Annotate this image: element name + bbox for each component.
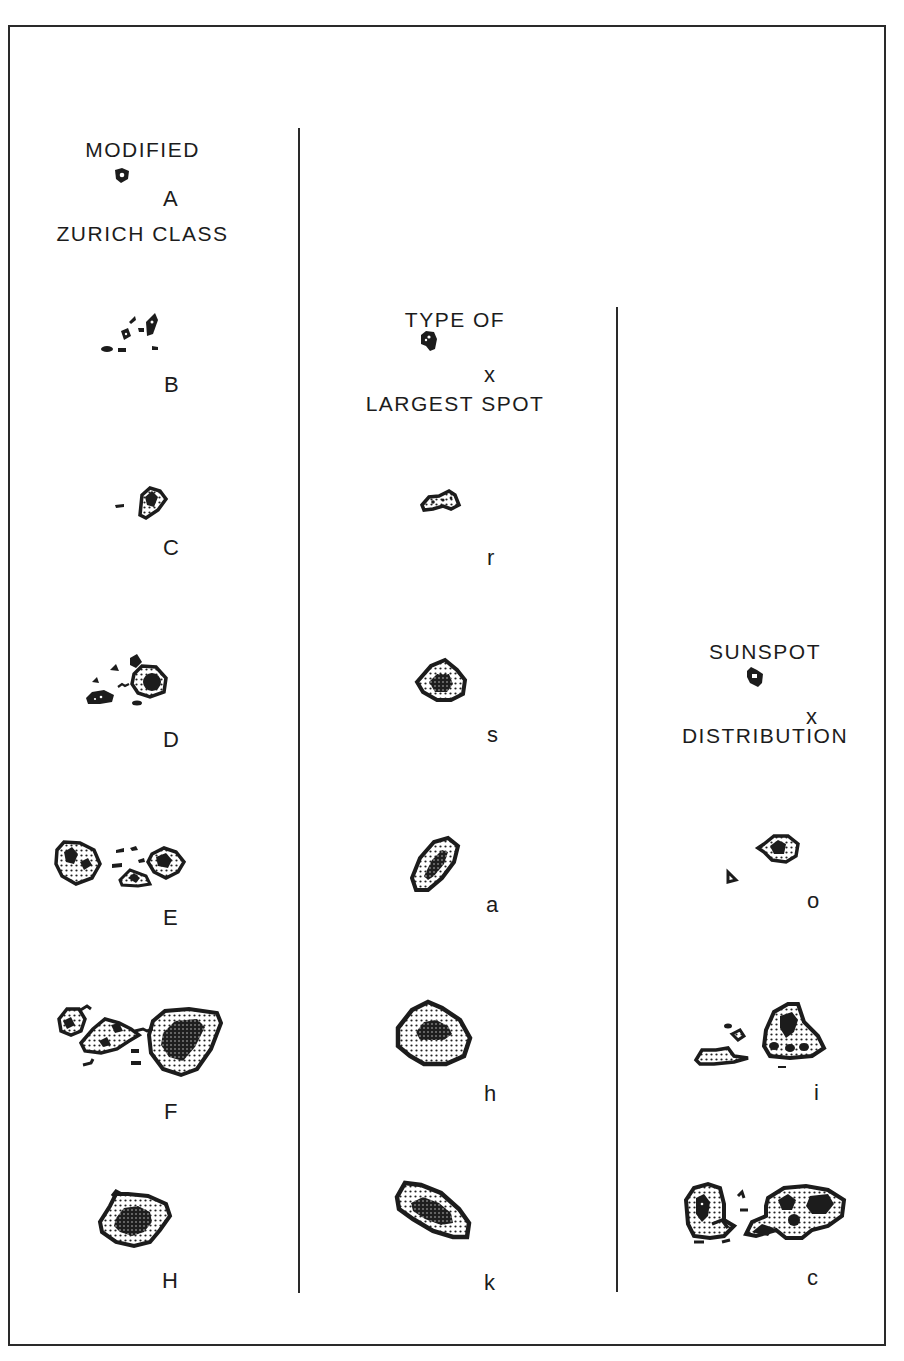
intermediate-distribution-icon: [694, 1002, 834, 1072]
bipolar-penumbra-both-ends-icon: [84, 652, 174, 708]
heading-line: DISTRIBUTION: [655, 722, 875, 750]
rudimentary-penumbra-icon: [419, 487, 463, 513]
bipolar-spots-no-penumbra-icon: [98, 310, 168, 358]
heading-line: TYPE OF: [340, 306, 570, 334]
column-divider-1: [298, 128, 300, 1293]
heading-line: MODIFIED: [40, 136, 245, 164]
unipolar-small-spot-icon: [112, 166, 132, 186]
large-symmetric-penumbra-icon: [394, 998, 474, 1066]
type-label-r: r: [487, 545, 494, 571]
class-label-B: B: [164, 372, 179, 398]
no-penumbra-spot-icon: [418, 329, 440, 353]
distribution-label-x: x: [806, 704, 817, 730]
bipolar-very-large-group-icon: [57, 1003, 227, 1079]
column-heading-zurich-class: MODIFIED ZURICH CLASS: [40, 80, 245, 276]
class-label-C: C: [163, 535, 179, 561]
distribution-label-i: i: [814, 1080, 819, 1106]
type-label-k: k: [484, 1270, 495, 1296]
open-distribution-icon: [724, 830, 810, 890]
column-heading-largest-spot: TYPE OF LARGEST SPOT: [340, 250, 570, 446]
type-label-h: h: [484, 1081, 496, 1107]
type-label-x: x: [484, 362, 495, 388]
unipolar-with-penumbra-icon: [98, 1188, 174, 1252]
heading-line: ZURICH CLASS: [40, 220, 245, 248]
class-label-A: A: [163, 186, 178, 212]
distribution-label-c: c: [807, 1265, 818, 1291]
distribution-label-o: o: [807, 888, 819, 914]
class-label-E: E: [163, 905, 178, 931]
class-label-H: H: [162, 1268, 178, 1294]
class-label-F: F: [164, 1099, 177, 1125]
heading-line: SUNSPOT: [655, 638, 875, 666]
large-asymmetric-penumbra-icon: [393, 1179, 473, 1245]
small-asymmetric-penumbra-icon: [408, 834, 462, 896]
single-spot-icon: [744, 665, 766, 689]
compact-distribution-icon: [682, 1180, 852, 1250]
type-label-a: a: [486, 892, 498, 918]
small-symmetric-penumbra-icon: [413, 656, 469, 706]
bipolar-one-penumbra-icon: [112, 485, 172, 521]
bipolar-large-group-icon: [54, 838, 189, 890]
heading-line: LARGEST SPOT: [340, 390, 570, 418]
type-label-s: s: [487, 722, 498, 748]
class-label-D: D: [163, 727, 179, 753]
column-divider-2: [616, 307, 618, 1292]
